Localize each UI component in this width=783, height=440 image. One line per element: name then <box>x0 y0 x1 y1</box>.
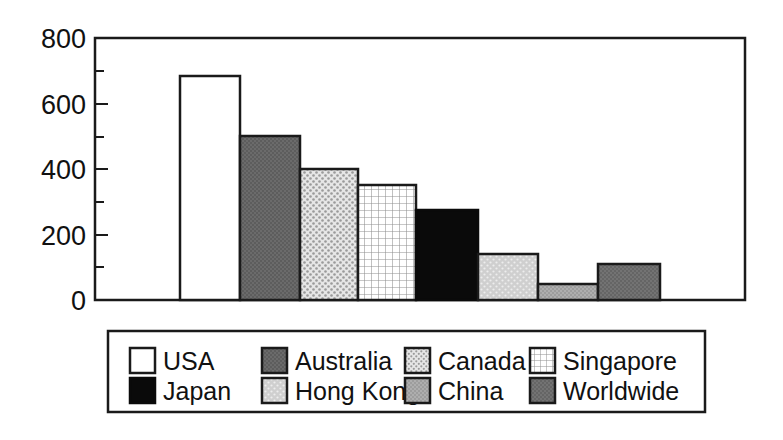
bar-worldwide[interactable] <box>598 264 660 300</box>
legend-swatch-hong-kong <box>262 378 287 403</box>
bar-chart-figure: 800 600 400 200 0 <box>0 0 783 440</box>
legend: USA Australia Canada Singapore Japan <box>108 331 705 412</box>
y-tick-label-600: 600 <box>41 90 86 120</box>
legend-swatch-china <box>405 378 430 403</box>
bar-japan[interactable] <box>416 210 478 300</box>
bar-australia[interactable] <box>240 136 300 300</box>
legend-item-australia[interactable]: Australia <box>262 347 392 375</box>
legend-swatch-canada <box>405 348 430 373</box>
legend-label-singapore: Singapore <box>563 347 677 375</box>
bar-china[interactable] <box>538 284 598 300</box>
y-tick-label-800: 800 <box>41 24 86 54</box>
legend-item-worldwide[interactable]: Worldwide <box>530 377 679 405</box>
bar-series <box>180 76 660 300</box>
bar-usa[interactable] <box>180 76 240 300</box>
y-tick-label-0: 0 <box>71 286 86 316</box>
legend-label-china: China <box>438 377 503 405</box>
legend-item-canada[interactable]: Canada <box>405 347 526 375</box>
legend-item-usa[interactable]: USA <box>130 347 215 375</box>
legend-item-singapore[interactable]: Singapore <box>530 347 677 375</box>
legend-swatch-worldwide <box>530 378 555 403</box>
y-tick-label-200: 200 <box>41 221 86 251</box>
legend-swatch-singapore <box>530 348 555 373</box>
legend-label-canada: Canada <box>438 347 526 375</box>
legend-swatch-usa <box>130 348 155 373</box>
legend-item-japan[interactable]: Japan <box>130 377 231 405</box>
bar-singapore[interactable] <box>358 185 416 300</box>
legend-swatch-japan <box>130 378 155 403</box>
chart-canvas: 800 600 400 200 0 <box>0 0 783 440</box>
legend-label-hong-kong: Hong Kong <box>295 377 420 405</box>
legend-label-japan: Japan <box>163 377 231 405</box>
legend-item-hong-kong[interactable]: Hong Kong <box>262 377 420 405</box>
y-axis-tick-labels: 800 600 400 200 0 <box>41 24 86 316</box>
legend-swatch-australia <box>262 348 287 373</box>
legend-label-worldwide: Worldwide <box>563 377 679 405</box>
bar-hong-kong[interactable] <box>478 254 538 300</box>
legend-label-australia: Australia <box>295 347 392 375</box>
y-axis-ticks <box>95 71 108 267</box>
y-tick-label-400: 400 <box>41 155 86 185</box>
bar-canada[interactable] <box>300 169 358 300</box>
legend-item-china[interactable]: China <box>405 377 503 405</box>
legend-label-usa: USA <box>163 347 215 375</box>
